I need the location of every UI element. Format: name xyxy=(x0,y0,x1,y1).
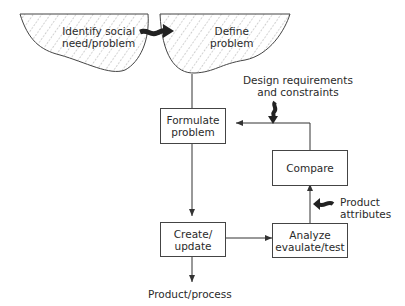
analyze-evaluate-box: Analyze evaulate/test xyxy=(272,223,348,258)
design-req-arrow-icon xyxy=(273,102,275,118)
product-attr-arrow-icon xyxy=(318,203,333,205)
product-attributes-label: Product attributes xyxy=(340,196,391,220)
curly-arrow-icon xyxy=(140,31,165,34)
formulate-problem-box: Formulate problem xyxy=(160,108,226,144)
compare-box: Compare xyxy=(272,150,348,186)
create-update-box: Create/ update xyxy=(160,222,226,257)
design-requirements-label: Design requirements and constraints xyxy=(243,74,353,98)
product-process-label: Product/process xyxy=(148,288,232,300)
identify-need-label: Identify social need/problem xyxy=(62,25,135,49)
define-problem-label: Define problem xyxy=(210,25,253,49)
